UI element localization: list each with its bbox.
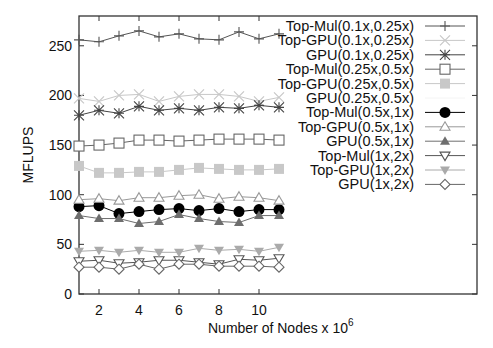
data-point <box>440 21 450 31</box>
x-axis-label-text: Number of Nodes x 10 <box>208 320 348 336</box>
y-tick-label: 150 <box>49 137 73 153</box>
data-point <box>234 261 244 271</box>
x-axis-label: Number of Nodes x 106 <box>208 317 354 336</box>
data-point <box>154 96 164 106</box>
data-point <box>234 103 244 113</box>
series-3 <box>74 134 284 151</box>
data-point <box>274 102 284 112</box>
data-point <box>134 167 144 177</box>
data-point <box>94 105 104 115</box>
y-axis-label: MFLUPS <box>20 127 36 184</box>
data-point <box>134 26 144 36</box>
data-point <box>74 161 84 171</box>
data-point <box>214 203 225 214</box>
data-point <box>274 262 284 272</box>
data-point <box>114 249 124 257</box>
data-point <box>94 37 104 47</box>
data-point <box>234 134 244 144</box>
data-point <box>154 249 164 257</box>
x-tick-label: 6 <box>175 302 183 318</box>
data-point <box>134 135 144 145</box>
data-point <box>234 165 244 175</box>
data-point <box>254 248 264 256</box>
y-tick-label: 250 <box>49 38 73 54</box>
data-point <box>254 100 264 110</box>
data-point <box>440 179 450 189</box>
data-point <box>154 135 164 145</box>
series-4 <box>74 161 284 178</box>
data-point <box>440 50 450 60</box>
data-point <box>194 135 204 145</box>
data-point <box>74 262 84 272</box>
data-point <box>274 135 284 145</box>
data-point <box>174 191 184 200</box>
legend-label: GPU(1x,2x) <box>338 176 414 192</box>
series-0 <box>74 26 284 47</box>
series-2 <box>74 100 284 120</box>
data-point <box>274 164 284 174</box>
line-chart: 050100150200250 246810 Top-Mul(0.1x,0.25… <box>0 0 493 348</box>
data-point <box>440 79 450 89</box>
data-point <box>254 134 264 144</box>
x-tick-label: 4 <box>135 302 143 318</box>
data-point <box>194 105 204 115</box>
data-point <box>174 165 184 175</box>
data-point <box>94 262 104 272</box>
data-point <box>114 31 124 41</box>
series-7 <box>74 190 284 204</box>
data-point <box>154 167 164 177</box>
data-point <box>440 107 451 118</box>
data-point <box>114 168 124 178</box>
data-point <box>134 101 144 111</box>
data-point <box>154 105 164 115</box>
legend-item: GPU(1x,2x) <box>338 176 465 192</box>
data-point <box>114 138 124 148</box>
series-10 <box>74 244 284 257</box>
data-point <box>174 249 184 257</box>
data-point <box>174 136 184 146</box>
data-point <box>134 193 144 202</box>
data-point <box>74 110 84 120</box>
y-tick-label: 50 <box>56 236 72 252</box>
y-tick-label: 100 <box>49 187 73 203</box>
data-point <box>154 32 164 42</box>
data-point <box>74 141 84 151</box>
data-point <box>74 211 84 220</box>
data-point <box>114 108 124 118</box>
data-point <box>94 140 104 150</box>
data-point <box>94 168 104 178</box>
data-point <box>214 164 224 174</box>
data-point <box>274 92 284 102</box>
series-8 <box>74 210 284 227</box>
data-point <box>174 29 184 39</box>
x-tick-label: 10 <box>251 302 267 318</box>
x-axis-label-exponent: 6 <box>348 317 354 328</box>
data-point <box>254 193 264 202</box>
data-point <box>254 165 264 175</box>
data-point <box>440 122 450 131</box>
data-point <box>134 206 145 217</box>
data-point <box>234 206 245 217</box>
data-point <box>214 247 224 256</box>
x-tick-label: 2 <box>95 302 103 318</box>
data-point <box>440 64 450 74</box>
data-point <box>154 204 165 215</box>
data-point <box>154 264 164 274</box>
data-point <box>94 194 104 203</box>
data-point <box>114 264 124 274</box>
data-point <box>194 34 204 44</box>
data-point <box>440 136 450 145</box>
data-point <box>234 192 244 201</box>
data-point <box>194 163 204 173</box>
data-point <box>214 35 224 45</box>
data-point <box>440 152 450 161</box>
data-point <box>214 134 224 144</box>
data-point <box>440 167 450 176</box>
data-point <box>214 102 224 112</box>
x-tick-label: 8 <box>215 302 223 318</box>
data-point <box>254 34 264 44</box>
data-point <box>74 248 84 256</box>
data-point <box>194 190 204 199</box>
y-tick-label: 0 <box>64 286 72 302</box>
y-tick-label: 200 <box>49 87 73 103</box>
